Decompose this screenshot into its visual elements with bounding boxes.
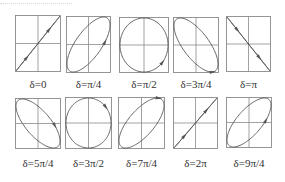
phase-label: δ=3π/2: [59, 157, 119, 169]
phase-label: δ=π: [219, 78, 279, 90]
lissajous-plot: [226, 16, 271, 72]
lissajous-panel: [173, 97, 218, 149]
phase-label: δ=7π/4: [112, 157, 172, 169]
lissajous-plot: [119, 17, 169, 73]
phase-label: δ=π/4: [59, 78, 119, 90]
lissajous-panel: [119, 17, 169, 73]
lissajous-panel: [15, 15, 61, 72]
phase-label: δ=π/2: [114, 78, 174, 90]
lissajous-plot: [66, 16, 111, 73]
lissajous-plot: [173, 97, 218, 149]
lissajous-plot: [65, 97, 112, 149]
lissajous-panel: [65, 97, 112, 149]
phase-label: δ=9π/4: [219, 157, 279, 169]
lissajous-panel: [173, 17, 219, 73]
lissajous-plot: [173, 17, 219, 73]
lissajous-panel: [15, 98, 61, 149]
lissajous-panel: [66, 16, 111, 73]
phase-label: δ=2π: [166, 157, 226, 169]
lissajous-plot: [226, 97, 272, 148]
lissajous-panel: [226, 16, 271, 72]
lissajous-plot: [118, 97, 165, 149]
cropped-caption-line: [0, 0, 72, 4]
lissajous-panel: [118, 97, 165, 149]
lissajous-plot: [15, 98, 61, 149]
lissajous-plot: [15, 15, 61, 72]
phase-label: δ=3π/4: [166, 78, 226, 90]
lissajous-panel: [226, 97, 272, 148]
